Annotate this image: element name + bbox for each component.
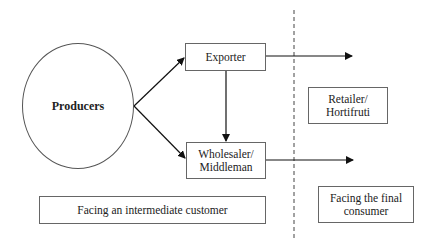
producers-label: Producers <box>52 99 104 114</box>
wholesaler-label-line2: Middleman <box>199 161 252 174</box>
final-consumer-region-label: Facing the final consumer <box>318 186 414 223</box>
intermediate-customer-region-label: Facing an intermediate customer <box>39 196 266 224</box>
wholesaler-label-line1: Wholesaler/ <box>198 148 254 161</box>
final-label-line2: consumer <box>344 205 389 218</box>
retailer-node: Retailer/ Hortifruti <box>308 87 388 124</box>
retailer-label-line1: Retailer/ <box>328 93 368 106</box>
exporter-node: Exporter <box>185 43 266 71</box>
producers-node: Producers <box>22 43 134 169</box>
retailer-label-line2: Hortifruti <box>326 106 370 119</box>
final-label-line1: Facing the final <box>330 192 402 205</box>
exporter-label: Exporter <box>205 51 245 64</box>
wholesaler-node: Wholesaler/ Middleman <box>186 142 266 179</box>
intermediate-label: Facing an intermediate customer <box>77 204 227 217</box>
arrow-producers-exporter <box>134 58 184 106</box>
arrow-producers-wholesaler <box>134 106 185 158</box>
